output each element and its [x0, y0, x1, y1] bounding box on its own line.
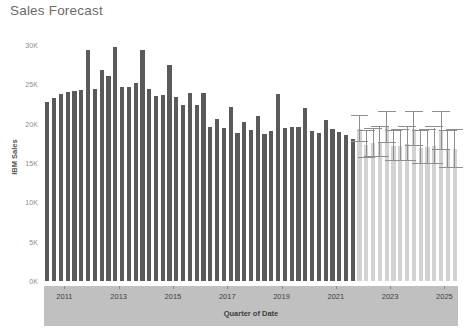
bar-actual[interactable]: [344, 135, 348, 281]
ci-cap-upper: [446, 129, 464, 130]
y-axis-title: IBM Sales: [10, 112, 19, 202]
chart-title: Sales Forecast: [10, 3, 103, 18]
x-tick-label: 2021: [327, 292, 344, 301]
x-tick-mark: [119, 286, 120, 289]
ci-cap-lower: [446, 167, 464, 168]
bar-actual[interactable]: [215, 119, 219, 281]
x-tick-mark: [444, 286, 445, 289]
bar-actual[interactable]: [154, 96, 158, 281]
bar-actual[interactable]: [337, 132, 341, 281]
x-tick-label: 2015: [165, 292, 182, 301]
x-tick-label: 2019: [273, 292, 290, 301]
bar-actual[interactable]: [201, 93, 205, 281]
bar-actual[interactable]: [174, 97, 178, 281]
bar-actual[interactable]: [161, 95, 165, 281]
y-tick-label: 25K: [25, 81, 38, 88]
x-tick-mark: [282, 286, 283, 289]
x-axis: Quarter of Date 201120132015201720192021…: [44, 286, 458, 326]
ci-cap-upper: [432, 111, 450, 112]
bar-actual[interactable]: [290, 127, 294, 281]
bar-actual[interactable]: [167, 65, 171, 282]
bar-actual[interactable]: [66, 92, 70, 281]
bar-actual[interactable]: [86, 50, 90, 281]
bar-actual[interactable]: [229, 107, 233, 281]
bar-actual[interactable]: [283, 128, 287, 281]
bar-actual[interactable]: [222, 128, 226, 281]
bar-actual[interactable]: [188, 93, 192, 281]
bar-actual[interactable]: [262, 134, 266, 281]
bar-actual[interactable]: [106, 76, 110, 281]
y-tick-label: 0K: [29, 278, 38, 285]
bar-actual[interactable]: [256, 116, 260, 281]
bar-actual[interactable]: [269, 131, 273, 281]
x-tick-mark: [390, 286, 391, 289]
bar-actual[interactable]: [181, 105, 185, 281]
bar-actual[interactable]: [140, 50, 144, 281]
bar-actual[interactable]: [72, 91, 76, 281]
bar-actual[interactable]: [134, 83, 138, 281]
bar-actual[interactable]: [324, 120, 328, 281]
ci-cap-upper: [351, 115, 369, 116]
bar-actual[interactable]: [52, 98, 56, 281]
x-axis-title: Quarter of Date: [44, 309, 458, 318]
bar-actual[interactable]: [93, 89, 97, 281]
ci-cap-upper: [378, 111, 396, 112]
ci-cap-upper: [405, 111, 423, 112]
bar-actual[interactable]: [79, 90, 83, 281]
bar-actual[interactable]: [147, 89, 151, 281]
bar-actual[interactable]: [208, 127, 212, 281]
x-tick-label: 2011: [56, 292, 72, 301]
x-tick-label: 2023: [382, 292, 399, 301]
bar-actual[interactable]: [249, 130, 253, 281]
ci-range-line: [454, 130, 455, 168]
bar-actual[interactable]: [120, 87, 124, 281]
bar-actual[interactable]: [113, 47, 117, 281]
bar-actual[interactable]: [330, 129, 334, 281]
x-tick-mark: [227, 286, 228, 289]
bar-actual[interactable]: [303, 108, 307, 281]
plot-area: [44, 33, 458, 281]
bar-actual[interactable]: [195, 105, 199, 281]
y-tick-label: 20K: [25, 120, 38, 127]
bar-actual[interactable]: [296, 127, 300, 281]
bar-actual[interactable]: [100, 70, 104, 281]
y-axis: IBM Sales 0K5K10K15K20K25K30K: [0, 33, 44, 281]
bar-actual[interactable]: [127, 87, 131, 281]
bar-actual[interactable]: [235, 133, 239, 281]
x-tick-mark: [336, 286, 337, 289]
x-tick-mark: [64, 286, 65, 289]
y-tick-label: 30K: [25, 41, 38, 48]
y-tick-label: 5K: [29, 238, 38, 245]
bar-actual[interactable]: [310, 131, 314, 281]
bar-actual[interactable]: [45, 102, 49, 281]
x-tick-label: 2017: [219, 292, 236, 301]
bar-actual[interactable]: [276, 94, 280, 281]
bar-actual[interactable]: [59, 94, 63, 281]
x-tick-mark: [173, 286, 174, 289]
bar-actual[interactable]: [317, 133, 321, 281]
bar-actual[interactable]: [242, 122, 246, 281]
confidence-interval-whisker: [446, 130, 464, 281]
y-tick-label: 10K: [25, 199, 38, 206]
sales-forecast-chart: Sales Forecast IBM Sales 0K5K10K15K20K25…: [0, 0, 472, 334]
y-tick-label: 15K: [25, 159, 38, 166]
x-tick-label: 2013: [110, 292, 127, 301]
bar-series-container: [44, 33, 458, 281]
x-tick-label: 2025: [436, 292, 453, 301]
